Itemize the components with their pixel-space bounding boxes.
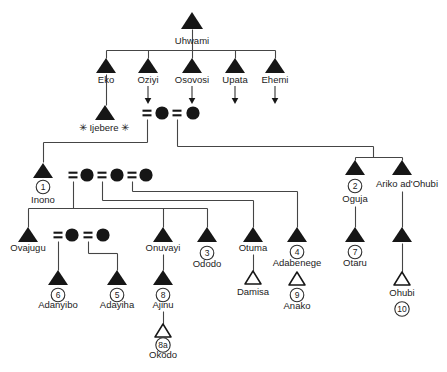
male-triangle-icon: [33, 163, 53, 178]
female-circle-icon: [110, 168, 123, 181]
person-ijebere: ✳ Ijebere ✳: [79, 105, 129, 133]
descent-arrow-icon: [145, 86, 152, 104]
male-triangle-icon: [95, 105, 115, 120]
female-circle-icon: [186, 106, 199, 119]
male-triangle-icon: [182, 58, 202, 73]
person-number: 10: [397, 304, 407, 314]
person-otaru: 7Otaru: [343, 227, 367, 268]
person-name: Inono: [31, 194, 55, 205]
person-ohubi: 10Ohubi: [389, 272, 414, 316]
male-triangle-icon: [48, 270, 68, 285]
person-anako: 9Anako: [284, 272, 311, 311]
person-name: Anako: [284, 300, 311, 311]
marriage-equals-icon: [143, 111, 152, 116]
person-adanyibo: 6Adanyibo: [38, 270, 78, 310]
person-oguja: 2Oguja: [342, 160, 368, 204]
male-triangle-icon: [345, 227, 365, 242]
descent-arrow-icon: [272, 86, 279, 104]
person-number: 1: [41, 182, 46, 192]
person-ariko-adohubi: Ariko ad'Ohubi: [376, 160, 438, 189]
person-name: Adayiha: [100, 299, 135, 310]
person-name: Okodo: [149, 349, 177, 360]
male-triangle-icon: [107, 270, 127, 285]
person-inono-wife-1: [80, 168, 93, 181]
person-name: Otaru: [343, 257, 367, 268]
female-circle-icon: [80, 168, 93, 181]
arrow-head: [272, 98, 279, 104]
male-triangle-icon: [392, 227, 412, 242]
person-name: Upata: [222, 74, 248, 85]
person-eko: Eko: [96, 58, 116, 85]
person-adabenege: 4Adabenege: [273, 227, 322, 268]
person-ovajugu-wife-1: [65, 228, 78, 241]
person-onuvayi: Onuvayi: [146, 227, 181, 253]
person-name: Ariko ad'Ohubi: [376, 178, 438, 189]
male-triangle-icon: [153, 270, 173, 285]
descent-arrow-icon: [189, 86, 196, 104]
person-ododo: 3Ododo: [193, 227, 222, 269]
male-triangle-icon: [18, 227, 38, 242]
person-upata: Upata: [222, 58, 248, 85]
marriage-equals-icon: [128, 173, 137, 178]
kinship-diagram: UhwamiEkoOziyiOsovosiUpataEhemi✳ Ijebere…: [0, 0, 447, 372]
person-name: Ajinu: [152, 299, 173, 310]
people-layer: UhwamiEkoOziyiOsovosiUpataEhemi✳ Ijebere…: [10, 12, 438, 360]
person-name: Adanyibo: [38, 299, 78, 310]
male-open-triangle-icon: [289, 272, 305, 285]
marriage-equals-icon: [69, 173, 78, 178]
person-ovajugu: Ovajugu: [10, 227, 45, 253]
person-name: Ohubi: [389, 287, 414, 298]
male-triangle-icon: [225, 58, 245, 73]
male-triangle-icon: [138, 58, 158, 73]
male-triangle-icon: [265, 58, 285, 73]
male-open-triangle-icon: [155, 324, 171, 337]
person-inono: 1Inono: [31, 163, 55, 205]
person-name: Ovajugu: [10, 242, 45, 253]
female-circle-icon: [96, 228, 109, 241]
arrow-head: [232, 98, 239, 104]
male-triangle-icon: [287, 227, 307, 242]
person-name: Adabenege: [273, 257, 322, 268]
marriage-equals-icon: [84, 233, 93, 238]
person-ijebere-wife-2: [186, 106, 199, 119]
female-circle-icon: [65, 228, 78, 241]
person-number: 9: [295, 290, 300, 300]
person-osovosi: Osovosi: [175, 58, 209, 85]
person-number: 7: [353, 247, 358, 257]
male-open-triangle-icon: [394, 272, 410, 285]
person-name: Ehemi: [262, 74, 289, 85]
male-triangle-icon: [243, 227, 263, 242]
male-triangle-icon: [345, 160, 365, 175]
person-name: Eko: [98, 74, 114, 85]
male-triangle-icon: [153, 227, 173, 242]
marriage-equals-icon: [54, 233, 63, 238]
arrow-head: [189, 98, 196, 104]
male-triangle-icon: [197, 227, 217, 242]
male-triangle-icon: [96, 58, 116, 73]
person-adayiha: 5Adayiha: [100, 270, 135, 310]
person-name: Oguja: [342, 193, 368, 204]
person-damisa: Damisa: [237, 271, 270, 297]
person-name: Osovosi: [175, 74, 209, 85]
person-name: Oziyi: [137, 74, 158, 85]
female-circle-icon: [139, 168, 152, 181]
kinship-diagram-canvas: UhwamiEkoOziyiOsovosiUpataEhemi✳ Ijebere…: [0, 0, 447, 372]
male-open-triangle-icon: [245, 271, 261, 284]
person-name: Damisa: [237, 286, 270, 297]
person-ijebere-wife-1: [155, 106, 168, 119]
person-name: Onuvayi: [146, 242, 181, 253]
person-number: 2: [353, 181, 358, 191]
person-ovajugu-wife-2: [96, 228, 109, 241]
marriage-equals-icon: [173, 111, 182, 116]
person-inono-wife-2: [110, 168, 123, 181]
male-triangle-icon: [392, 160, 412, 175]
descent-arrow-icon: [232, 86, 239, 104]
person-number: 3: [205, 248, 210, 258]
person-ariko-son: [392, 227, 412, 242]
descent-arrows-layer: [145, 86, 279, 104]
person-ehemi: Ehemi: [262, 58, 289, 85]
person-name: ✳ Ijebere ✳: [79, 122, 129, 133]
person-number: 4: [295, 247, 300, 257]
person-otuma: Otuma: [239, 227, 268, 253]
person-name: Uhwami: [175, 35, 209, 46]
